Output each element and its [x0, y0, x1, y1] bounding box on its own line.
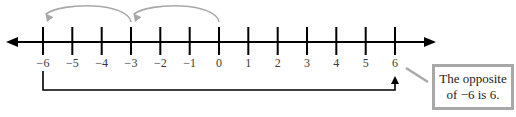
callout-connector: [406, 68, 428, 82]
tick-label: 3: [295, 56, 319, 71]
tick-label: −1: [178, 56, 202, 71]
right-arrow-icon: [424, 37, 436, 47]
tick-label: −4: [90, 56, 114, 71]
opposite-bracket: [43, 71, 395, 90]
callout-box: The opposite of −6 is 6.: [432, 64, 514, 110]
arc-0-to-neg3: [134, 6, 219, 22]
tick-label: 1: [236, 56, 260, 71]
tick-label: −5: [60, 56, 84, 71]
tick-label: 4: [324, 56, 348, 71]
tick-label: −3: [119, 56, 143, 71]
arc-neg3-to-neg6: [46, 6, 131, 22]
tick-label: 6: [383, 56, 407, 71]
tick-label: −2: [148, 56, 172, 71]
tick-label: 2: [266, 56, 290, 71]
tick-label: −6: [31, 56, 55, 71]
callout-line-2: of −6 is 6.: [447, 87, 500, 103]
bracket-arrow-icon: [391, 76, 399, 84]
number-line-diagram: −6 −5 −4 −3 −2 −1 0 1 2 3 4 5 6 The oppo…: [0, 0, 516, 117]
tick-label: 5: [354, 56, 378, 71]
callout-line-1: The opposite: [439, 71, 507, 87]
left-arrow-icon: [6, 37, 18, 47]
tick-label: 0: [207, 56, 231, 71]
